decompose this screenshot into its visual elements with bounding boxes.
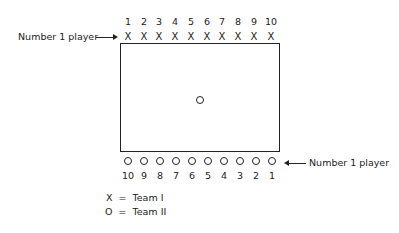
team1-player-x: X bbox=[168, 32, 182, 42]
team1-player-x: X bbox=[137, 32, 151, 42]
legend-item-team2: O = Team II bbox=[105, 206, 166, 218]
team1-player-x: X bbox=[215, 32, 229, 42]
legend-symbol: O bbox=[105, 206, 112, 217]
arrow-right-icon bbox=[113, 34, 118, 40]
team1-player-x: X bbox=[231, 32, 245, 42]
team2-number: 8 bbox=[153, 171, 167, 181]
team2-player-circle-icon bbox=[156, 157, 164, 165]
team2-number: 9 bbox=[137, 171, 151, 181]
team2-number: 1 bbox=[265, 171, 279, 181]
team2-player-circle-icon bbox=[252, 157, 260, 165]
team1-number: 6 bbox=[200, 17, 214, 27]
team1-player-x: X bbox=[121, 32, 135, 42]
team2-player-circle-icon bbox=[220, 157, 228, 165]
team1-player-x: X bbox=[247, 32, 261, 42]
team2-number1-label: Number 1 player bbox=[309, 158, 389, 168]
team2-player-circle-icon bbox=[204, 157, 212, 165]
team2-number: 6 bbox=[185, 171, 199, 181]
team1-number: 2 bbox=[137, 17, 151, 27]
legend-equals: = bbox=[119, 206, 127, 217]
team2-number: 5 bbox=[201, 171, 215, 181]
team2-number: 7 bbox=[169, 171, 183, 181]
arrow-line bbox=[96, 37, 114, 38]
legend-text: Team I bbox=[133, 192, 164, 203]
team1-number1-label: Number 1 player bbox=[18, 32, 98, 42]
team2-number: 10 bbox=[121, 171, 135, 181]
team1-number: 3 bbox=[152, 17, 166, 27]
team2-player-circle-icon bbox=[140, 157, 148, 165]
team2-player-circle-icon bbox=[172, 157, 180, 165]
team2-player-circle-icon bbox=[188, 157, 196, 165]
team2-player-circle-icon bbox=[268, 157, 276, 165]
team1-number: 5 bbox=[184, 17, 198, 27]
center-player-circle-icon bbox=[196, 96, 204, 104]
legend-text: Team II bbox=[133, 206, 167, 217]
team1-player-x: X bbox=[152, 32, 166, 42]
team1-number: 8 bbox=[231, 17, 245, 27]
team2-player-circle-icon bbox=[124, 157, 132, 165]
team1-number: 1 bbox=[121, 17, 135, 27]
team2-number: 2 bbox=[249, 171, 263, 181]
legend-equals: = bbox=[119, 192, 127, 203]
team1-number: 10 bbox=[264, 17, 278, 27]
legend-item-team1: X = Team I bbox=[106, 192, 163, 204]
arrow-line bbox=[288, 163, 306, 164]
team1-player-x: X bbox=[200, 32, 214, 42]
team1-player-x: X bbox=[264, 32, 278, 42]
team2-number: 3 bbox=[233, 171, 247, 181]
team2-number: 4 bbox=[217, 171, 231, 181]
team1-number: 9 bbox=[247, 17, 261, 27]
team1-player-x: X bbox=[184, 32, 198, 42]
team1-number: 7 bbox=[215, 17, 229, 27]
legend-symbol: X bbox=[106, 192, 113, 203]
team2-player-circle-icon bbox=[236, 157, 244, 165]
team1-number: 4 bbox=[168, 17, 182, 27]
